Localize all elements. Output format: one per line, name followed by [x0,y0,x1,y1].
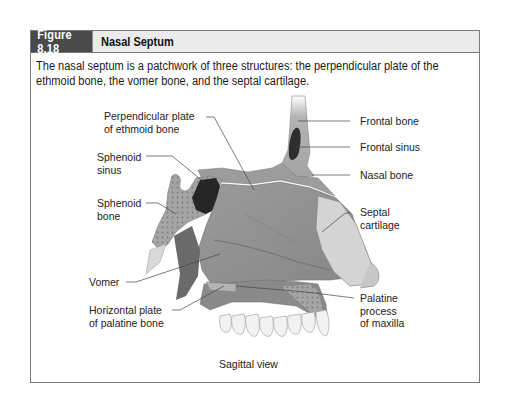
label-sphenoid-sinus: Sphenoid sinus [97,151,141,176]
teeth [219,310,329,336]
label-frontal-sinus: Frontal sinus [360,141,420,154]
label-horizontal-plate: Horizontal plate of palatine bone [89,304,164,329]
label-nasal-bone: Nasal bone [360,169,413,182]
label-frontal-bone: Frontal bone [360,115,419,128]
label-septal-cartilage: Septal cartilage [360,206,400,231]
nasal-septum-illustration [0,0,507,406]
label-sphenoid-bone: Sphenoid bone [97,197,141,222]
label-perpendicular-plate: Perpendicular plate of ethmoid bone [104,110,194,135]
view-label: Sagittal view [219,358,278,370]
label-vomer: Vomer [89,276,119,289]
label-palatine-process: Palatine process of maxilla [360,292,404,330]
